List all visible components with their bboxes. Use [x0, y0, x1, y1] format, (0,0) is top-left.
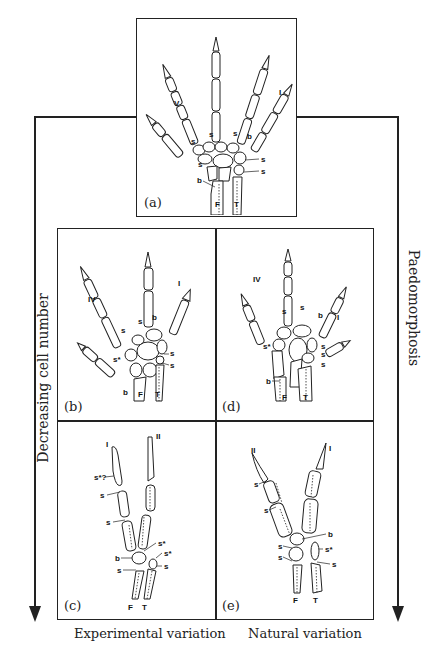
svg-text:II: II	[156, 432, 160, 441]
svg-text:s: s	[278, 542, 283, 551]
svg-text:s: s	[261, 167, 266, 176]
forearm	[211, 177, 242, 215]
panel-a: V I s s s b s s s b F T (a)	[136, 18, 297, 217]
svg-text:b: b	[266, 377, 271, 386]
panel-label-c: (c)	[64, 598, 81, 613]
digit-label-V: V	[174, 99, 180, 108]
limb-label-F: F	[215, 200, 220, 209]
svg-text:I: I	[106, 440, 108, 449]
right-axis-label: Paedomorphosis	[406, 248, 422, 368]
svg-text:s: s	[261, 155, 266, 164]
panel-b: IV I s b s s* s s b F T (b)	[58, 229, 215, 420]
hand-skeleton-e: II I s s b s s* s s F T	[216, 421, 373, 619]
panel-label-a: (a)	[144, 195, 162, 210]
panel-d: IV I s s b s* s s s b F T (d)	[216, 229, 373, 420]
svg-text:s: s	[254, 480, 259, 489]
svg-text:b: b	[247, 132, 252, 141]
svg-text:s: s	[164, 562, 169, 571]
svg-text:s: s	[209, 130, 214, 139]
svg-text:s: s	[191, 137, 196, 146]
svg-text:F: F	[128, 603, 133, 612]
svg-text:s*: s*	[164, 549, 172, 558]
digit-V	[143, 112, 184, 159]
right-connector-horizontal	[296, 116, 399, 118]
svg-text:s: s	[100, 491, 105, 500]
right-arrow-head	[392, 606, 404, 622]
svg-text:b: b	[318, 311, 323, 320]
svg-text:II: II	[251, 446, 255, 455]
svg-text:s: s	[321, 360, 326, 369]
svg-text:F: F	[138, 390, 143, 399]
svg-text:s*?: s*?	[94, 473, 107, 482]
hand-skeleton-c: I II s*? s s s* b s* s s F T	[58, 421, 215, 619]
svg-text:s: s	[117, 566, 122, 575]
svg-text:s: s	[198, 160, 203, 169]
svg-text:IV: IV	[88, 295, 96, 304]
left-axis-label: Decreasing cell number	[35, 293, 51, 463]
svg-text:s: s	[106, 518, 111, 527]
svg-text:T: T	[313, 596, 318, 605]
svg-text:T: T	[155, 390, 160, 399]
svg-text:I: I	[337, 313, 339, 322]
svg-text:s: s	[121, 326, 126, 335]
svg-text:s: s	[264, 506, 269, 515]
svg-text:T: T	[142, 603, 147, 612]
panel-label-d: (d)	[222, 399, 240, 414]
hand-skeleton-a: V I s s s b s s s b F T	[137, 19, 295, 215]
hand-skeleton-b: IV I s b s s* s s b F T	[58, 229, 215, 420]
panel-label-b: (b)	[64, 399, 82, 414]
svg-text:F: F	[293, 596, 298, 605]
svg-text:b: b	[328, 530, 333, 539]
svg-text:s: s	[233, 129, 238, 138]
left-arrow-head	[29, 606, 41, 622]
limb-label-T: T	[234, 200, 239, 209]
hand-skeleton-d: IV I s s b s* s s s b F T	[216, 229, 373, 420]
svg-text:b: b	[123, 388, 128, 397]
svg-text:b: b	[115, 554, 120, 563]
svg-text:T: T	[303, 393, 308, 402]
svg-text:I: I	[329, 444, 331, 453]
svg-text:s: s	[332, 560, 337, 569]
svg-text:s: s	[321, 350, 326, 359]
panel-label-e: (e)	[222, 598, 240, 613]
caption-experimental: Experimental variation	[74, 626, 226, 641]
svg-text:s: s	[170, 349, 175, 358]
svg-text:s*: s*	[325, 545, 333, 554]
svg-text:I: I	[178, 279, 180, 288]
panel-e: II I s s b s s* s s F T (e)	[216, 421, 373, 619]
right-arrow-shaft	[397, 116, 399, 612]
caption-natural: Natural variation	[248, 626, 362, 641]
svg-text:F: F	[282, 393, 287, 402]
digit-label-I: I	[279, 88, 281, 97]
svg-text:IV: IV	[253, 275, 261, 284]
left-connector-horizontal	[34, 116, 137, 118]
svg-text:s*: s*	[158, 539, 166, 548]
svg-text:b: b	[152, 313, 157, 322]
svg-text:s: s	[300, 303, 305, 312]
svg-text:s: s	[170, 361, 175, 370]
panel-c: I II s*? s s s* b s* s s F T (c)	[58, 421, 215, 619]
svg-text:s*: s*	[263, 342, 271, 351]
svg-text:b: b	[197, 176, 202, 185]
svg-text:s: s	[282, 307, 287, 316]
svg-text:s: s	[138, 317, 143, 326]
svg-text:s*: s*	[113, 355, 121, 364]
digit-middle	[212, 37, 220, 142]
svg-text:s: s	[278, 553, 283, 562]
